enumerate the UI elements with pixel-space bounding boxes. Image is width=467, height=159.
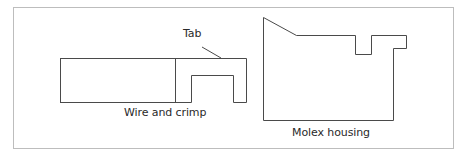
tab-label: Tab [183, 27, 201, 40]
tab-leader-line [202, 47, 221, 58]
wire-and-crimp-label: Wire and crimp [124, 106, 206, 119]
wire-shape [61, 59, 176, 103]
molex-housing-label: Molex housing [292, 126, 370, 139]
connector-diagram [0, 0, 467, 159]
crimp-terminal-shape [176, 59, 247, 103]
molex-housing-shape [264, 18, 407, 121]
